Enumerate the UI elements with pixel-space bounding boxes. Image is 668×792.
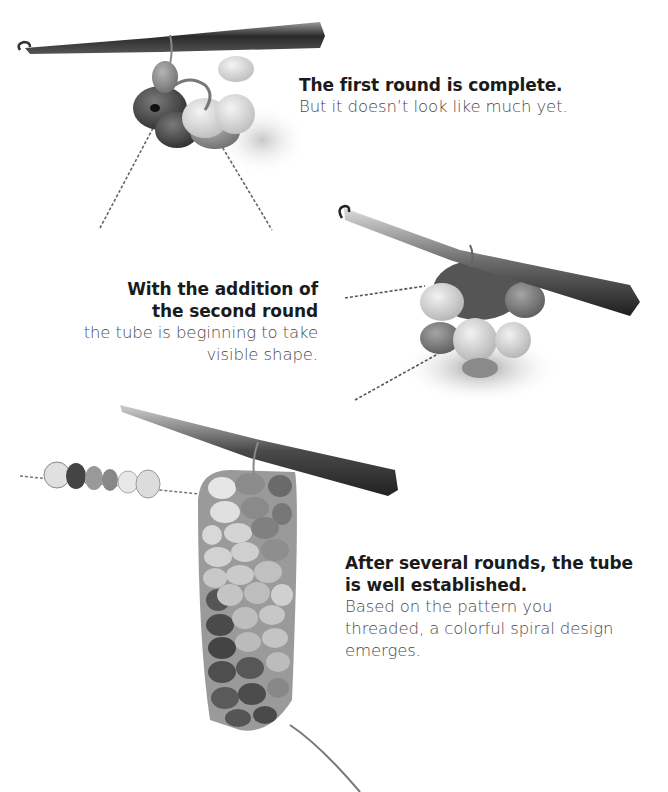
step-2-body-line-2: visible shape.	[0, 344, 318, 366]
step-1-caption: The first round is complete. But it does…	[299, 74, 659, 118]
step-3-heading-line-2: is well established.	[345, 574, 665, 596]
step-2-body-line-1: the tube is beginning to take	[0, 322, 318, 344]
step-2-heading-line-2: the second round	[0, 300, 318, 322]
first-round-illustration	[0, 0, 340, 240]
step-3-body-line-1: Based on the pattern you	[345, 596, 665, 618]
step-1-heading: The first round is complete.	[299, 74, 659, 96]
step-3-caption: After several rounds, the tube is well e…	[345, 552, 665, 662]
second-round-illustration	[330, 190, 668, 410]
step-2-heading-line-1: With the addition of	[0, 278, 318, 300]
step-3-body-line-2: threaded, a colorful spiral design	[345, 618, 665, 640]
step-3-body-line-3: emerges.	[345, 640, 665, 662]
step-3-heading-line-1: After several rounds, the tube	[345, 552, 665, 574]
step-2-caption: With the addition of the second round th…	[0, 278, 318, 366]
crochet-hook-icon	[25, 22, 325, 54]
step-1-body: But it doesn’t look like much yet.	[299, 96, 659, 118]
